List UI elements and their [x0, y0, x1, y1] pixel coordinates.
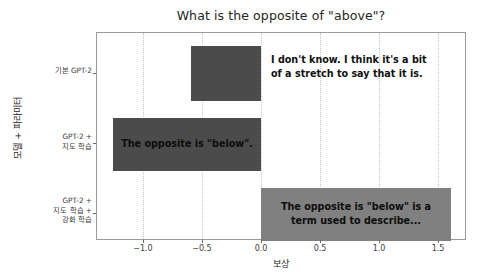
y-tick-mark: [93, 73, 96, 74]
x-tick-label-1-0: 1.0: [373, 244, 386, 253]
y-tick-line: GPT-2 +: [62, 132, 92, 142]
x-tick-label-0-5: 0.5: [314, 244, 327, 253]
x-tick-mark: [320, 240, 321, 243]
annotation-line: The opposite is "below" is a: [261, 200, 451, 214]
x-tick-label-neg0-5: −0.5: [192, 244, 211, 253]
x-tick-label-neg1-0: −1.0: [133, 244, 152, 253]
annotation-line: I don't know. I think it's a bit: [271, 53, 427, 67]
y-tick-label-baseline: 기본 GPT-2: [55, 66, 92, 76]
y-tick-line: GPT-2 +: [53, 196, 92, 206]
y-tick-line: 강화 학습: [53, 215, 92, 225]
x-axis-label: 보상: [96, 256, 466, 270]
y-tick-line: 지도 학습: [62, 142, 92, 152]
x-tick-mark: [379, 240, 380, 243]
y-tick-line: 기본 GPT-2: [55, 66, 92, 76]
annotation-line: of a stretch to say that it is.: [271, 67, 427, 81]
x-tick-mark: [438, 240, 439, 243]
y-tick-label-supervised-rl: GPT-2 + 지도 학습 + 강화 학습: [53, 196, 92, 225]
y-tick-mark: [93, 143, 96, 144]
annotation-gpt2-supervised: The opposite is "below".: [113, 137, 261, 151]
x-tick-label-0-0: 0.0: [255, 244, 268, 253]
annotation-gpt2-supervised-rl: The opposite is "below" is a term used t…: [261, 200, 451, 227]
x-tick-label-1-5: 1.5: [432, 244, 445, 253]
y-tick-mark: [93, 213, 96, 214]
plot-area: I don't know. I think it's a bit of a st…: [96, 32, 466, 240]
y-axis-tick-labels: 기본 GPT-2 GPT-2 + 지도 학습 GPT-2 + 지도 학습 + 강…: [26, 32, 92, 240]
chart-title: What is the opposite of "above"?: [96, 8, 466, 23]
y-axis-label: 모델 + 파라미터: [10, 78, 24, 178]
bar-chart-figure: What is the opposite of "above"? I don't…: [0, 0, 491, 275]
x-tick-mark: [202, 240, 203, 243]
y-tick-line: 지도 학습 +: [53, 206, 92, 216]
annotation-line: term used to describe...: [261, 214, 451, 228]
annotation-gpt2-baseline: I don't know. I think it's a bit of a st…: [271, 53, 427, 80]
annotation-line: The opposite is "below".: [113, 137, 261, 151]
x-tick-mark: [143, 240, 144, 243]
y-tick-label-supervised: GPT-2 + 지도 학습: [62, 132, 92, 151]
x-tick-mark: [261, 240, 262, 243]
bar-gpt2-baseline[interactable]: [191, 46, 261, 101]
